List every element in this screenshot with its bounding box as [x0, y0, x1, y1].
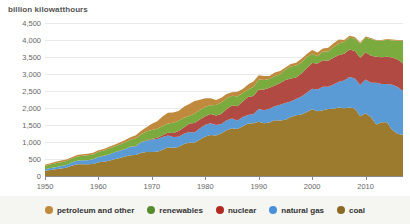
legend-dot-petroleum: [45, 206, 53, 214]
chart-legend: petroleum and otherrenewablesnuclearnatu…: [0, 196, 410, 224]
x-axis-tick-label: 1970: [144, 182, 161, 191]
x-axis-tick-mark: [98, 176, 99, 180]
y-axis-tick-label: 1,000: [1, 138, 41, 147]
legend-item-label: petroleum and other: [57, 206, 134, 215]
legend-dot-coal: [337, 206, 345, 214]
area-series-svg: [45, 23, 403, 176]
y-axis-tick-label: 1,500: [1, 121, 41, 130]
y-axis-tick-labels: 4,5004,0003,5003,0002,5002,0001,5001,000…: [0, 0, 41, 224]
legend-item[interactable]: natural gas: [269, 206, 324, 215]
chart-container: billion kilowatthours 4,5004,0003,5003,0…: [0, 0, 410, 224]
x-axis-tick-mark: [312, 176, 313, 180]
x-axis-tick-label: 1990: [250, 182, 267, 191]
legend-item[interactable]: nuclear: [216, 206, 256, 215]
legend-dot-renewables: [147, 206, 155, 214]
x-axis-tick-label: 2000: [304, 182, 321, 191]
x-axis-tick-mark: [366, 176, 367, 180]
y-axis-tick-label: 500: [1, 155, 41, 164]
x-axis-tick-mark: [45, 176, 46, 180]
y-axis-tick-label: 3,500: [1, 53, 41, 62]
legend-item-label: natural gas: [281, 206, 324, 215]
y-axis-tick-label: 3,000: [1, 70, 41, 79]
legend-item[interactable]: coal: [337, 206, 365, 215]
x-axis-tick-mark: [205, 176, 206, 180]
legend-dot-nuclear: [216, 206, 224, 214]
x-axis-tick-mark: [152, 176, 153, 180]
y-axis-tick-label: 2,500: [1, 87, 41, 96]
x-axis-tick-label: 2010: [357, 182, 374, 191]
x-axis-tick-mark: [259, 176, 260, 180]
stacked-area-plot: [45, 23, 403, 176]
x-axis-tick-label: 1950: [37, 182, 54, 191]
y-axis-tick-label: 4,500: [1, 19, 41, 28]
legend-item[interactable]: renewables: [147, 206, 203, 215]
y-axis-tick-label: 4,000: [1, 36, 41, 45]
legend-item-label: renewables: [159, 206, 203, 215]
legend-dot-natural-gas: [269, 206, 277, 214]
y-axis-tick-label: 2,000: [1, 104, 41, 113]
x-axis-tick-label: 1980: [197, 182, 214, 191]
legend-item-label: coal: [349, 206, 365, 215]
x-axis-tick-label: 1960: [90, 182, 107, 191]
y-axis-tick-label: 0: [1, 172, 41, 181]
legend-item[interactable]: petroleum and other: [45, 206, 134, 215]
plot-wrapper: [45, 23, 403, 176]
legend-item-label: nuclear: [228, 206, 256, 215]
